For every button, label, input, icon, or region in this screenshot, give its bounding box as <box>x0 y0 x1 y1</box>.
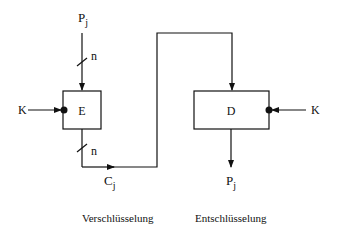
encryption-key-dot-icon <box>61 107 68 114</box>
output-bus-width-label: n <box>91 144 97 158</box>
encryption-block-label: E <box>78 104 85 118</box>
decryption-caption: Entschlüsselung <box>195 212 267 224</box>
plaintext-output-label: Pj <box>226 173 236 191</box>
decryption-key-dot-icon <box>266 107 273 114</box>
plaintext-input-label: Pj <box>78 10 88 28</box>
input-bus-width-label: n <box>91 49 97 63</box>
ciphertext-channel-line <box>112 33 232 167</box>
encryption-key-label: K <box>18 103 27 117</box>
decryption-block-label: D <box>227 104 236 118</box>
decryption-key-label: K <box>311 103 320 117</box>
ciphertext-label: Cj <box>104 173 115 191</box>
encryption-caption: Verschlüsselung <box>82 212 154 224</box>
cipher-diagram: Pj n E K n Cj D K Pj Verschlüsselung Ent… <box>0 0 337 226</box>
